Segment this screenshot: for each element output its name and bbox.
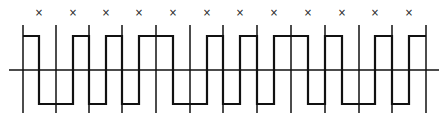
sample-mark-icon: × bbox=[134, 8, 144, 18]
sample-mark-icon: × bbox=[269, 8, 279, 18]
clock-lines bbox=[23, 25, 426, 113]
waveform-diagram: ×××××××××××× bbox=[0, 0, 443, 124]
sample-mark-icon: × bbox=[337, 8, 347, 18]
sample-mark-icon: × bbox=[303, 8, 313, 18]
sample-mark-icon: × bbox=[68, 8, 78, 18]
sample-mark-icon: × bbox=[34, 8, 44, 18]
sample-mark-icon: × bbox=[370, 8, 380, 18]
waveform-canvas bbox=[0, 0, 443, 124]
sample-mark-icon: × bbox=[235, 8, 245, 18]
sample-mark-icon: × bbox=[101, 8, 111, 18]
sample-mark-icon: × bbox=[168, 8, 178, 18]
sample-mark-icon: × bbox=[202, 8, 212, 18]
sample-mark-icon: × bbox=[404, 8, 414, 18]
